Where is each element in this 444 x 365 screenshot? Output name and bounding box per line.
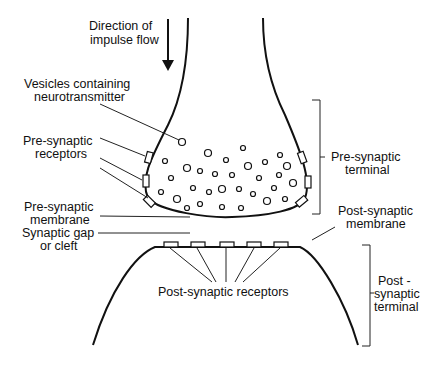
post-synaptic-terminal-bracket: [362, 245, 374, 346]
pre-synaptic-receptors-left: [143, 151, 155, 207]
direction-label-2: impulse flow: [90, 33, 160, 47]
gap-label-1: Synaptic gap: [22, 226, 94, 240]
vesicles-label-2: neurotransmitter: [34, 90, 125, 104]
impulse-direction-arrow-icon: [162, 19, 174, 71]
synapse-diagram: Direction of impulse flow: [0, 0, 444, 365]
post-membrane-label-1: Post-synaptic: [338, 204, 413, 218]
post-terminal-label-3: terminal: [374, 300, 418, 314]
vesicles: [159, 139, 297, 211]
leader-lines: [98, 104, 335, 282]
pre-membrane-label-1: Pre-synaptic: [24, 200, 93, 214]
vesicles-label-1: Vesicles containing: [24, 77, 130, 91]
pre-receptors-label-2: receptors: [35, 147, 87, 161]
gap-label-2: or cleft: [40, 239, 78, 253]
pre-terminal-label-2: terminal: [345, 163, 389, 177]
pre-membrane-label-2: membrane: [30, 213, 90, 227]
pre-receptors-label-1: Pre-synaptic: [23, 134, 92, 148]
post-receptors-label: Post-synaptic receptors: [158, 285, 289, 299]
direction-label-1: Direction of: [89, 19, 153, 33]
pre-terminal-label-1: Pre-synaptic: [331, 150, 400, 164]
post-terminal-label-2: synaptic: [374, 287, 420, 301]
pre-synaptic-terminal-bracket: [312, 100, 325, 214]
pre-synaptic-terminal-outline: [145, 18, 307, 217]
pre-synaptic-receptors-right: [295, 151, 311, 207]
post-terminal-label-1: Post -: [378, 274, 411, 288]
post-membrane-label-2: membrane: [346, 217, 406, 231]
